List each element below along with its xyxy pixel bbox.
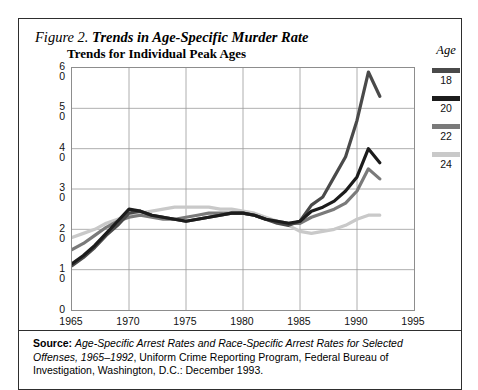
legend-label-24: 24 bbox=[423, 158, 462, 170]
figure-title: Figure 2. Trends in Age-Specific Murder … bbox=[35, 29, 308, 46]
figure-panel: Figure 2. Trends in Age-Specific Murder … bbox=[18, 18, 462, 390]
y-tick-10: 10 bbox=[43, 264, 65, 283]
x-tick-1975: 1975 bbox=[165, 315, 205, 327]
source-note: Source: Age-Specific Arrest Rates and Ra… bbox=[33, 337, 445, 378]
legend-swatch-18 bbox=[432, 68, 460, 73]
x-tick-1970: 1970 bbox=[108, 315, 148, 327]
legend-title: Age bbox=[423, 43, 462, 58]
legend-label-18: 18 bbox=[423, 74, 462, 86]
legend-item-24[interactable]: 24 bbox=[423, 152, 462, 170]
figure-subtitle: Trends for Individual Peak Ages bbox=[67, 46, 246, 62]
legend-swatch-20 bbox=[432, 96, 460, 101]
source-divider bbox=[19, 330, 462, 331]
x-tick-1980: 1980 bbox=[222, 315, 262, 327]
legend-label-20: 20 bbox=[423, 102, 462, 114]
y-tick-60: 60 bbox=[43, 62, 65, 81]
legend-swatch-22 bbox=[432, 124, 460, 129]
y-tick-20: 20 bbox=[43, 224, 65, 243]
x-tick-1965: 1965 bbox=[51, 315, 91, 327]
legend-label-22: 22 bbox=[423, 130, 462, 142]
y-axis-title: Rate per 100,000 Population bbox=[18, 18, 19, 105]
y-tick-0: 0 bbox=[43, 305, 65, 315]
y-tick-30: 30 bbox=[43, 183, 65, 202]
source-prefix: Source: bbox=[33, 337, 72, 349]
legend-item-22[interactable]: 22 bbox=[423, 124, 462, 142]
x-tick-1995: 1995 bbox=[393, 315, 433, 327]
legend-item-20[interactable]: 20 bbox=[423, 96, 462, 114]
y-tick-40: 40 bbox=[43, 143, 65, 162]
y-tick-50: 50 bbox=[43, 102, 65, 121]
legend-item-18[interactable]: 18 bbox=[423, 68, 462, 86]
plot-area bbox=[71, 67, 415, 311]
figure-title-text: Trends in Age-Specific Murder Rate bbox=[92, 29, 308, 45]
x-tick-1985: 1985 bbox=[279, 315, 319, 327]
figure-number: Figure 2. bbox=[35, 29, 88, 45]
line-chart-svg bbox=[72, 68, 414, 310]
x-tick-1990: 1990 bbox=[336, 315, 376, 327]
legend-swatch-24 bbox=[432, 152, 460, 157]
legend: Age 18 20 22 24 bbox=[423, 43, 462, 180]
